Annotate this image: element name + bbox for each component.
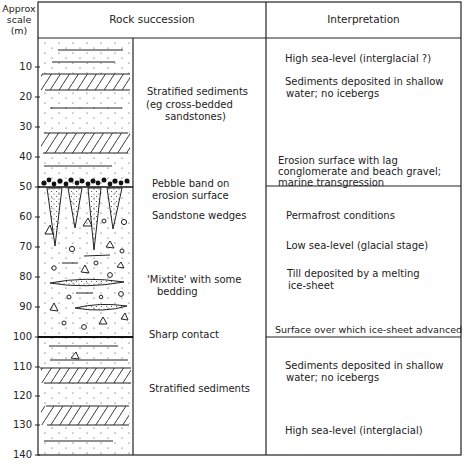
interp-shallow-water-bottom: water; no icebergs [286,372,379,384]
rock-label-pebble-band: Pebble band on [152,178,229,190]
interp-permafrost: Permafrost conditions [286,210,395,222]
interp-low-sea-level: Low sea-level (glacial stage) [286,240,428,252]
upper-stratified-sediments [39,39,132,186]
stratigraphic-column-drawing [0,0,469,467]
scale-label: 70 [6,241,32,252]
scale-label: 60 [6,211,32,222]
rock-label-mixtite: 'Mixtite' with some [147,274,241,286]
rock-label-stratified-top: (eg cross-bedded [146,99,233,111]
scale-label: 120 [6,390,32,401]
scale-label: 40 [6,151,32,162]
scale-axis-title: Approx scale (m) [2,3,36,36]
scale-label: 50 [6,181,32,192]
scale-label: 140 [6,449,32,460]
interp-shallow-water-top: water; no icebergs [286,88,379,100]
scale-label: 130 [6,419,32,430]
lower-stratified-sediments [39,338,132,454]
scale-label: 30 [6,121,32,132]
interp-ice-sheet-surface: Surface over which ice-sheet advanced [275,324,462,336]
interp-high-sea-level-bottom: High sea-level (interglacial) [285,425,423,437]
interp-till: Till deposited by a melting [287,268,420,280]
rock-label-sandstone-wedges: Sandstone wedges [152,210,246,222]
scale-label: 90 [6,301,32,312]
rock-succession-header: Rock succession [38,13,266,25]
rock-label-pebble-band: erosion surface [152,190,229,202]
scale-label: 100 [6,331,32,342]
rock-label-stratified-top: sandstones) [165,111,226,123]
rock-label-sharp-contact: Sharp contact [149,329,219,341]
interp-till: ice-sheet [288,280,334,292]
rock-label-stratified-bottom: Stratified sediments [149,383,250,395]
scale-label: 20 [6,91,32,102]
interp-shallow-water-top: Sediments deposited in shallow [285,76,444,88]
interp-high-sea-level-top: High sea-level (interglacial ?) [285,53,431,65]
rock-label-mixtite: bedding [157,286,198,298]
interp-shallow-water-bottom: Sediments deposited in shallow [285,360,444,372]
interpretation-header: Interpretation [266,13,461,25]
scale-label: 10 [6,61,32,72]
interp-erosion-surface: marine transgression [278,177,384,189]
scale-label: 110 [6,361,32,372]
scale-label: 80 [6,271,32,282]
rock-label-stratified-top: Stratified sediments [147,86,248,98]
